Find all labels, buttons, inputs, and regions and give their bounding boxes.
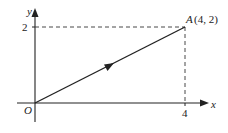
- x-axis-arrow-icon: [200, 100, 209, 107]
- point-A-name: A: [185, 13, 193, 25]
- y-axis-label: y: [26, 5, 32, 17]
- origin-label: O: [24, 104, 32, 116]
- diagram-canvas: y x O 2 4 A (4, 2): [0, 0, 228, 133]
- y-axis-arrow-icon: [32, 8, 39, 17]
- y-tick-label: 2: [22, 21, 28, 33]
- coordinate-diagram: y x O 2 4 A (4, 2): [0, 0, 228, 133]
- point-A-coords: (4, 2): [194, 13, 218, 26]
- direction-arrow-icon: [104, 63, 114, 71]
- x-tick-label: 4: [182, 107, 188, 119]
- x-axis: [17, 100, 209, 107]
- y-axis: [32, 8, 39, 122]
- x-axis-label: x: [210, 98, 216, 110]
